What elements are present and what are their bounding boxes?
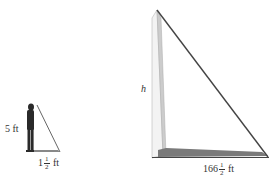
sun-ray-monument bbox=[157, 10, 268, 157]
person-torso bbox=[27, 110, 34, 130]
person-shadow-whole: 1 bbox=[38, 157, 43, 168]
obelisk-shadow bbox=[158, 148, 268, 157]
fraction-denominator: 2 bbox=[45, 164, 49, 171]
sun-ray-person bbox=[37, 105, 60, 152]
monument-shadow-whole: 166 bbox=[203, 163, 218, 174]
person-shadow bbox=[34, 150, 60, 152]
person-shadow-label: 112 ft bbox=[38, 156, 59, 171]
person-shadow-unit: ft bbox=[53, 157, 59, 168]
monument-height-label: h bbox=[141, 84, 146, 94]
monument-shadow-unit: ft bbox=[228, 163, 234, 174]
person-head bbox=[28, 104, 34, 111]
person-height-label: 5 ft bbox=[5, 124, 19, 134]
fraction-denominator: 2 bbox=[220, 170, 224, 177]
monument-shadow-label: 16612 ft bbox=[203, 162, 234, 177]
person-figure bbox=[26, 104, 35, 153]
person-shadow-fraction: 12 bbox=[44, 156, 50, 171]
person-leg-right bbox=[31, 129, 34, 151]
person-leg-left bbox=[28, 129, 31, 151]
obelisk bbox=[152, 10, 166, 158]
monument-shadow-fraction: 12 bbox=[219, 162, 225, 177]
